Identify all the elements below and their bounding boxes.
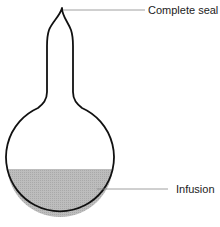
infusion-label: Infusion [176, 184, 215, 195]
complete-seal-label: Complete seal [148, 5, 218, 16]
